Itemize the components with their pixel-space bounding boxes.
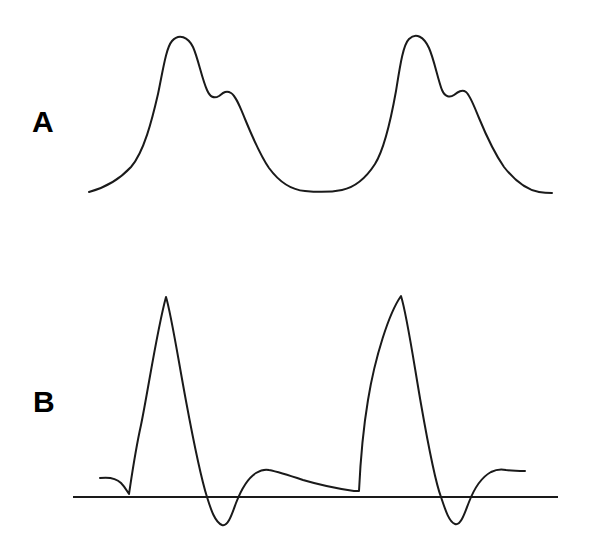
panel-b-group: B: [33, 296, 558, 525]
panel-a-label: A: [32, 105, 54, 138]
figure-container: A B: [0, 0, 589, 543]
panel-a-group: A: [32, 36, 552, 193]
panel-a-waveform: [89, 36, 552, 193]
panel-b-waveform: [100, 296, 525, 525]
panel-b-label: B: [33, 385, 55, 418]
waveform-figure: A B: [0, 0, 589, 543]
